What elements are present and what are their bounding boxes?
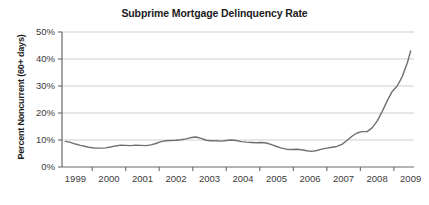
x-axis-ticks-group: 1999200020012002200320042005200620072008… — [65, 167, 421, 184]
x-axis-tick-label: 2007 — [333, 173, 354, 184]
x-axis-tick-label: 1999 — [65, 173, 86, 184]
gridlines-group — [62, 32, 414, 140]
chart-figure: Subprime Mortgage Delinquency Rate Perce… — [0, 0, 429, 205]
y-axis-tick-label: 30% — [36, 80, 56, 91]
x-axis-tick-label: 2008 — [367, 173, 388, 184]
y-axis-tick-label: 0% — [41, 161, 55, 172]
x-axis-tick-label: 2005 — [266, 173, 287, 184]
y-axis-tick-label: 40% — [36, 53, 56, 64]
x-axis-tick-label: 2006 — [300, 173, 321, 184]
y-axis-tick-label: 10% — [36, 134, 56, 145]
x-axis-tick-label: 2004 — [232, 173, 253, 184]
x-axis-tick-label: 2003 — [199, 173, 220, 184]
y-axis-tick-label: 20% — [36, 107, 56, 118]
x-axis-tick-label: 2009 — [400, 173, 421, 184]
line-chart-plot: 0%10%20%30%40%50% 1999200020012002200320… — [0, 0, 429, 205]
x-axis-tick-label: 2002 — [165, 173, 186, 184]
y-axis-ticks-group: 0%10%20%30%40%50% — [36, 26, 62, 172]
data-series-line — [65, 51, 410, 151]
x-axis-tick-label: 2001 — [132, 173, 153, 184]
x-axis-tick-label: 2000 — [98, 173, 119, 184]
y-axis-tick-label: 50% — [36, 26, 56, 37]
